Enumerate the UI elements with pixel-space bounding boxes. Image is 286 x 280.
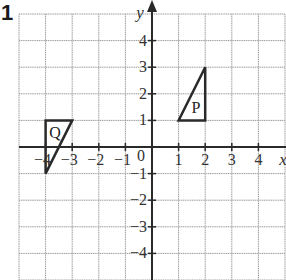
- shape-label-q: Q: [49, 124, 61, 141]
- y-axis-label: y: [134, 3, 144, 22]
- x-axis-label: x: [278, 150, 286, 169]
- y-tick-label: 2: [139, 85, 147, 102]
- y-tick-label: 3: [139, 58, 147, 75]
- x-tick-label: 1: [175, 151, 183, 168]
- x-tick-label: 4: [254, 151, 262, 168]
- x-tick-label: −2: [87, 151, 104, 168]
- y-tick-label: 4: [139, 32, 147, 49]
- x-tick-label: −3: [61, 151, 78, 168]
- x-tick-label: 2: [201, 151, 209, 168]
- x-tick-label: −1: [114, 151, 131, 168]
- y-tick-label: −3: [130, 218, 147, 235]
- y-tick-label: −1: [130, 165, 147, 182]
- y-tick-label: −2: [130, 191, 147, 208]
- y-axis-arrow-icon: [147, 0, 157, 12]
- x-tick-label: −4: [34, 151, 51, 168]
- origin-label: 0: [137, 147, 145, 164]
- y-tick-label: 1: [139, 111, 147, 128]
- coordinate-grid: PQ −4−3−2−112344321−1−2−3−40xy: [0, 0, 286, 280]
- x-tick-label: 3: [228, 151, 236, 168]
- shape-label-p: P: [191, 99, 200, 116]
- y-tick-label: −4: [130, 244, 147, 261]
